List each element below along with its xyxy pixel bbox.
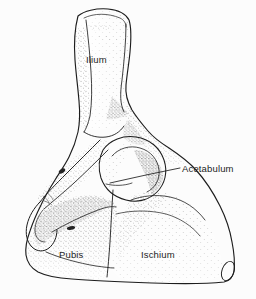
anatomical-figure: Ilium Acetabulum Pubis Ischium bbox=[0, 0, 256, 299]
label-ischium: Ischium bbox=[141, 250, 175, 260]
stipple-shading bbox=[26, 8, 226, 284]
label-pubis: Pubis bbox=[59, 250, 84, 260]
hip-bone-illustration bbox=[0, 0, 256, 299]
label-ilium: Ilium bbox=[86, 55, 107, 65]
label-acetabulum: Acetabulum bbox=[182, 164, 234, 174]
